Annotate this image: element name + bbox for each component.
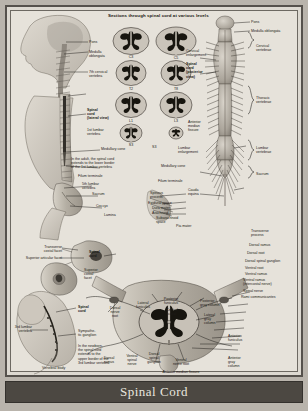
label-superior-articular-facet: Superior articular facet: [4, 256, 62, 260]
label-dorsal-ramus: Dorsal ramus: [249, 243, 270, 247]
label-transverse-costal-facet: Transverse costal facet: [18, 245, 62, 253]
label-coccyx: Coccyx: [96, 204, 108, 208]
illustration-page: Sections through spinal cord at various …: [0, 0, 308, 411]
vertebral-region-braces: [248, 32, 254, 178]
label-cervical-enlargement: Cervical enlargement: [186, 49, 206, 57]
label-spinal-cord-posterior-view: Spinal cord (posterior view): [186, 62, 203, 79]
label-ventral-root: Ventral root: [245, 266, 263, 270]
label-superior-costal-facet: Superior costal facet: [84, 268, 98, 281]
cross-section-s3-left: [120, 124, 142, 142]
cross-section-l1: [116, 93, 147, 118]
cs-level-t8: T8: [166, 87, 186, 91]
label-pons-lateral: Pons: [89, 40, 97, 44]
label-rami-communicantes: Rami communicantes: [241, 295, 276, 299]
label-spinous-process: Spinous process: [150, 191, 163, 199]
label-ventral-ramus-intercostal: Ventral ramus (intercostal nerve): [243, 278, 272, 286]
cross-section-c3: [113, 28, 149, 55]
label-epidural-space: Epidural space: [148, 201, 172, 205]
label-lumbar-enlargement: Lumbar enlargement: [178, 146, 198, 154]
label-1st-lumbar-vertebra: 1st lumbar vertebra: [87, 128, 104, 136]
label-dorsal-ramus-lower: Dorsal ramus: [98, 356, 120, 364]
label-pia-mater: Pia mater: [176, 224, 191, 228]
label-lateral-funiculus: Lateral funiculus: [130, 301, 156, 309]
label-pons-posterior: Pons: [251, 20, 259, 24]
plate-caption-bar: Spinal Cord: [5, 381, 303, 403]
label-3rd-lumbar-vertebra: 3rd lumbar vertebra: [4, 325, 32, 333]
label-transverse-process: Transverse process: [251, 229, 269, 237]
sections-title: Sections through spinal cord at various …: [108, 13, 209, 18]
label-ventral-nerve-root: Ventral nerve root: [166, 358, 196, 366]
label-posterior-funiculus: Posterior funiculus: [158, 297, 184, 305]
label-medulla-oblongata-lateral: Medulla oblongata: [89, 50, 105, 58]
label-filum-terminale-lateral: Filum terminale: [78, 174, 103, 178]
label-thoracic-vertebrae: Thoracic vertebrae: [256, 96, 271, 104]
label-ventral-spinal-nerve: Ventral spinal nerve: [120, 354, 144, 367]
posterior-cord-figure: [205, 16, 245, 206]
cross-section-s3-right: [169, 127, 183, 139]
label-cervical-vertebrae: Cervical vertebrae: [256, 44, 271, 52]
head-lateral-figure: [21, 15, 91, 100]
label-dorsal-nerve-root: Dorsal nerve root: [104, 306, 126, 319]
label-medulla-oblongata-posterior: Medulla oblongata: [251, 29, 280, 33]
label-sympathetic-ganglion: Sympathe- tic ganglion: [78, 329, 96, 337]
label-medullary-cone-lateral: Medullary cone: [101, 147, 125, 151]
cs-level-c3: C3: [121, 55, 141, 59]
label-filum-terminale-posterior: Filum terminale: [158, 179, 183, 183]
label-anterior-funiculus: Anterior funiculus: [228, 334, 242, 342]
cross-section-l3: [160, 92, 192, 118]
label-5th-lumbar-vertebra: 5th lumbar vertebra: [82, 182, 99, 190]
label-central-canal: Central canal: [160, 308, 184, 316]
label-cauda-equina: Cauda equina: [188, 188, 199, 196]
label-arachnoid: Arachnoid: [152, 211, 168, 215]
label-anterior-median-fissure-top: Anterior median fissure: [188, 120, 201, 133]
cs-level-l3: L3: [166, 119, 186, 123]
label-lamina: Lamina: [104, 213, 116, 217]
label-vertebral-body: Vertebral body: [42, 366, 65, 370]
label-dorsal-spinal-ganglion: Dorsal spinal ganglion: [245, 259, 280, 263]
label-lumbar-vertebrae: Lumbar vertebrae: [256, 146, 271, 154]
label-spinal-cord-newborn: Spinal cord: [78, 305, 89, 313]
cs-level-c5: C5: [166, 56, 186, 60]
label-anterior-median-fissure-lower: Anterior median fissure: [148, 370, 214, 374]
cs-level-l1: L1: [121, 119, 141, 123]
label-medullary-cone-posterior: Medullary cone: [161, 164, 185, 168]
label-posterior-gray-column: Posterior gray column: [200, 299, 220, 307]
label-dorsal-spinal-ganglion-lower: Dorsal spinal ganglion: [142, 352, 166, 365]
label-subarachnoid-space: Subarachnoid space: [156, 216, 178, 224]
label-spinal-cord-lateral-view: Spinal cord (lateral view): [87, 108, 109, 121]
cross-section-t2: [116, 61, 146, 86]
label-s3-level: S3: [152, 145, 156, 149]
label-spinal-cord-vertebra: Spinal cord: [89, 250, 100, 258]
note-adult-cord-extent: In the adult, the spinal cord extends to…: [71, 157, 115, 170]
label-dorsal-root: Dorsal root: [247, 251, 265, 255]
plate-caption-text: Spinal Cord: [120, 384, 188, 400]
label-7th-cervical-vertebra: 7th cervical vertebra: [89, 70, 107, 78]
cs-level-t2: T2: [121, 87, 141, 91]
label-dura-mater: Dura mater: [152, 206, 170, 210]
label-spinal-nerve: Spinal nerve: [243, 289, 263, 293]
label-ventral-ramus: Ventral ramus: [245, 272, 267, 276]
label-sacrum-posterior: Sacrum: [256, 172, 268, 176]
label-anterior-gray-column: Anterior gray column: [228, 356, 241, 369]
label-sacrum-lateral: Sacrum: [92, 192, 104, 196]
label-lateral-gray-column: Lateral gray column: [204, 313, 216, 326]
